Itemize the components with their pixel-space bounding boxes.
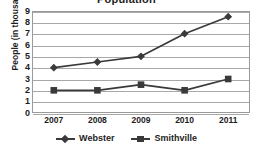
data-point-webster-2009 bbox=[137, 52, 145, 60]
data-point-smithville-2011 bbox=[225, 76, 232, 83]
legend-label-webster: Webster bbox=[79, 134, 114, 143]
data-point-webster-2011 bbox=[224, 13, 232, 21]
data-point-smithville-2007 bbox=[51, 87, 58, 94]
data-point-smithville-2009 bbox=[138, 81, 145, 88]
legend-label-smithville: Smithville bbox=[154, 134, 197, 143]
legend-item-webster[interactable]: Webster bbox=[56, 134, 114, 143]
data-point-webster-2008 bbox=[94, 58, 102, 66]
data-point-smithville-2008 bbox=[94, 87, 101, 94]
series-webster bbox=[50, 13, 232, 72]
chart-legend: Webster Smithville bbox=[0, 134, 253, 143]
square-marker-icon bbox=[131, 134, 150, 143]
diamond-marker-icon bbox=[56, 134, 75, 143]
data-point-webster-2010 bbox=[181, 30, 189, 38]
series-layer bbox=[0, 0, 253, 150]
series-smithville bbox=[51, 76, 232, 94]
population-line-chart: Population People (in thousands) 0123456… bbox=[0, 0, 253, 150]
data-point-smithville-2010 bbox=[181, 87, 188, 94]
legend-item-smithville[interactable]: Smithville bbox=[131, 134, 197, 143]
data-point-webster-2007 bbox=[50, 64, 58, 72]
